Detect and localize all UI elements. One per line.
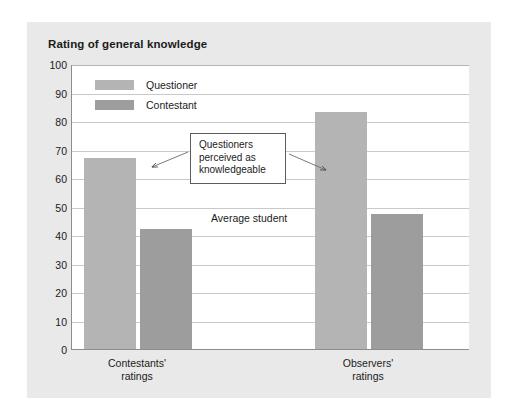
chart-title: Rating of general knowledge	[48, 38, 207, 50]
y-axis-tick-label: 80	[35, 116, 67, 128]
annotation-callout-questioners: Questionersperceived asknowledgeable	[190, 133, 286, 184]
legend-swatch-icon	[95, 80, 134, 90]
chart-legend: QuestionerContestant	[95, 76, 245, 116]
y-axis-tick-label: 100	[35, 59, 67, 71]
y-axis-tick-label: 60	[35, 173, 67, 185]
x-axis-category-label: Contestants'ratings	[67, 357, 207, 383]
bar-questioner-1	[315, 112, 367, 349]
x-axis-category-line: Observers'	[298, 357, 438, 370]
legend-swatch-icon	[95, 100, 134, 110]
bar-contestant-1	[371, 214, 423, 349]
bar-questioner-0	[84, 158, 136, 349]
y-axis-tick-label: 50	[35, 202, 67, 214]
annotation-callout-line: perceived as	[199, 152, 278, 165]
y-axis-tick-label: 90	[35, 88, 67, 100]
y-axis-tick-label: 20	[35, 287, 67, 299]
gridline	[72, 65, 469, 66]
annotation-average-student: Average student	[211, 212, 287, 224]
y-axis-tick-label: 70	[35, 145, 67, 157]
x-axis-category-line: Contestants'	[67, 357, 207, 370]
y-axis-tick-label: 40	[35, 230, 67, 242]
chart-figure: Rating of general knowledge 010203040506…	[0, 0, 517, 420]
legend-item-questioner[interactable]: Questioner	[95, 76, 245, 93]
x-axis-category-label: Observers'ratings	[298, 357, 438, 383]
legend-label: Contestant	[146, 99, 197, 111]
bar-contestant-0	[140, 229, 192, 349]
y-axis-tick-label: 0	[35, 344, 67, 356]
y-axis-tick-label: 30	[35, 259, 67, 271]
x-axis-category-line: ratings	[298, 370, 438, 383]
annotation-callout-line: Questioners	[199, 139, 278, 152]
y-axis: 0102030405060708090100	[33, 65, 67, 350]
y-axis-tick-label: 10	[35, 316, 67, 328]
annotation-callout-line: knowledgeable	[199, 164, 278, 177]
legend-item-contestant[interactable]: Contestant	[95, 96, 245, 113]
x-axis-category-line: ratings	[67, 370, 207, 383]
gridline	[72, 122, 469, 123]
legend-label: Questioner	[146, 79, 197, 91]
